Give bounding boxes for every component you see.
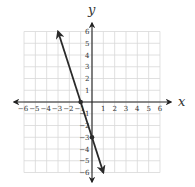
y-tick-label: −5 (79, 157, 89, 165)
x-tick-label: −6 (18, 105, 29, 113)
y-tick-label: 2 (85, 75, 89, 83)
x-axis-label: x (178, 94, 186, 109)
x-tick-label: −3 (52, 105, 62, 113)
y-tick-label: −4 (79, 146, 90, 154)
x-tick-label: 1 (101, 105, 105, 113)
x-tick-label: 6 (158, 105, 163, 113)
y-tick-label: 5 (85, 40, 89, 48)
x-tick-label: −4 (41, 105, 52, 113)
x-tick-label: 5 (146, 105, 150, 113)
axes (14, 23, 171, 182)
y-tick-label: −3 (79, 134, 89, 142)
x-tick-label: 2 (112, 105, 116, 113)
y-tick-label: 6 (85, 28, 90, 36)
x-tick-label: 3 (124, 105, 128, 113)
y-tick-label: 1 (85, 87, 89, 95)
data-point (78, 100, 83, 105)
x-tick-label: 4 (135, 105, 140, 113)
y-tick-label: 4 (85, 52, 90, 60)
y-tick-label: 3 (85, 63, 89, 71)
x-tick-label: −5 (29, 105, 39, 113)
coordinate-plane: −6−5−4−3−2−1123456−6−5−4−3−2−1123456 x y (0, 0, 195, 187)
y-axis-label: y (87, 2, 96, 17)
y-tick-label: −6 (79, 169, 90, 177)
data-point (90, 135, 95, 140)
x-tick-label: −2 (63, 105, 73, 113)
